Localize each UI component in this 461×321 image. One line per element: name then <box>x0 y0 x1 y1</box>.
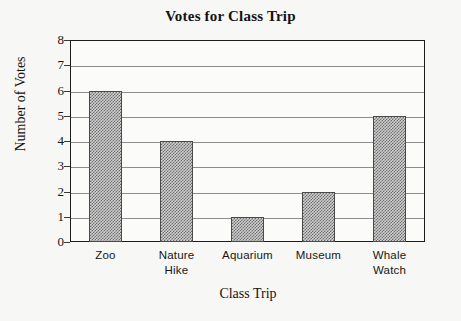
bar-chart: Votes for Class Trip Number of Votes 012… <box>0 0 461 321</box>
x-tick-label-line: Nature <box>141 248 212 263</box>
y-tick-label: 3 <box>44 158 64 174</box>
bar <box>89 91 122 243</box>
bar <box>373 116 406 242</box>
x-tick-label-line: Museum <box>283 248 354 263</box>
x-tick-label: Aquarium <box>212 248 283 263</box>
y-tick-label: 0 <box>44 234 64 250</box>
y-tick-label: 4 <box>44 133 64 149</box>
x-tick-label-line: Whale <box>354 248 425 263</box>
x-tick-label: Museum <box>283 248 354 263</box>
x-tick-label: NatureHike <box>141 248 212 278</box>
y-tick-label: 7 <box>44 57 64 73</box>
y-tick-label: 6 <box>44 83 64 99</box>
x-axis-title: Class Trip <box>70 286 426 302</box>
bars-group <box>70 40 425 242</box>
y-tick-label: 8 <box>44 32 64 48</box>
x-tick-label-line: Zoo <box>70 248 141 263</box>
x-tick-label-line: Watch <box>354 263 425 278</box>
y-axis-title: Number of Votes <box>13 29 29 179</box>
bar <box>302 192 335 243</box>
y-tick-label: 5 <box>44 108 64 124</box>
y-tick-mark <box>64 242 70 243</box>
bar <box>231 217 264 242</box>
x-tick-label-line: Aquarium <box>212 248 283 263</box>
y-tick-label: 1 <box>44 209 64 225</box>
chart-title: Votes for Class Trip <box>0 8 461 25</box>
bar <box>160 141 193 242</box>
x-tick-label: Zoo <box>70 248 141 263</box>
x-tick-label: WhaleWatch <box>354 248 425 278</box>
y-tick-label: 2 <box>44 184 64 200</box>
x-tick-label-line: Hike <box>141 263 212 278</box>
